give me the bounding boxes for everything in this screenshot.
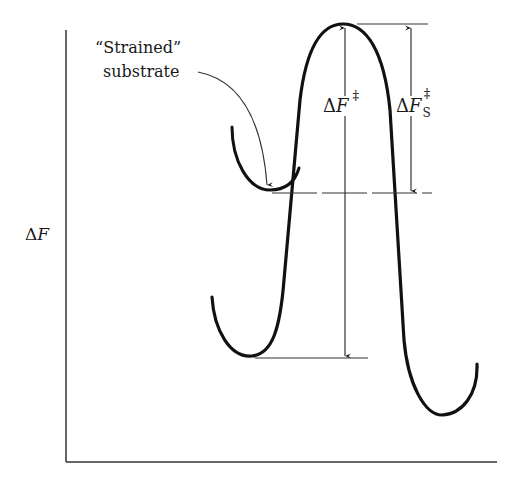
energy-diagram: ΔF ΔF‡ ΔFS‡ “Strained” substrate [0, 0, 516, 486]
strained-barrier-label: ΔFS‡ [396, 86, 431, 120]
barrier-label: ΔF‡ [323, 88, 360, 116]
strained-annotation-line1: “Strained” [95, 38, 181, 57]
strained-annotation-line2: substrate [103, 62, 179, 81]
y-axis-label: ΔF [25, 224, 50, 244]
strained-substrate-well [232, 127, 299, 190]
